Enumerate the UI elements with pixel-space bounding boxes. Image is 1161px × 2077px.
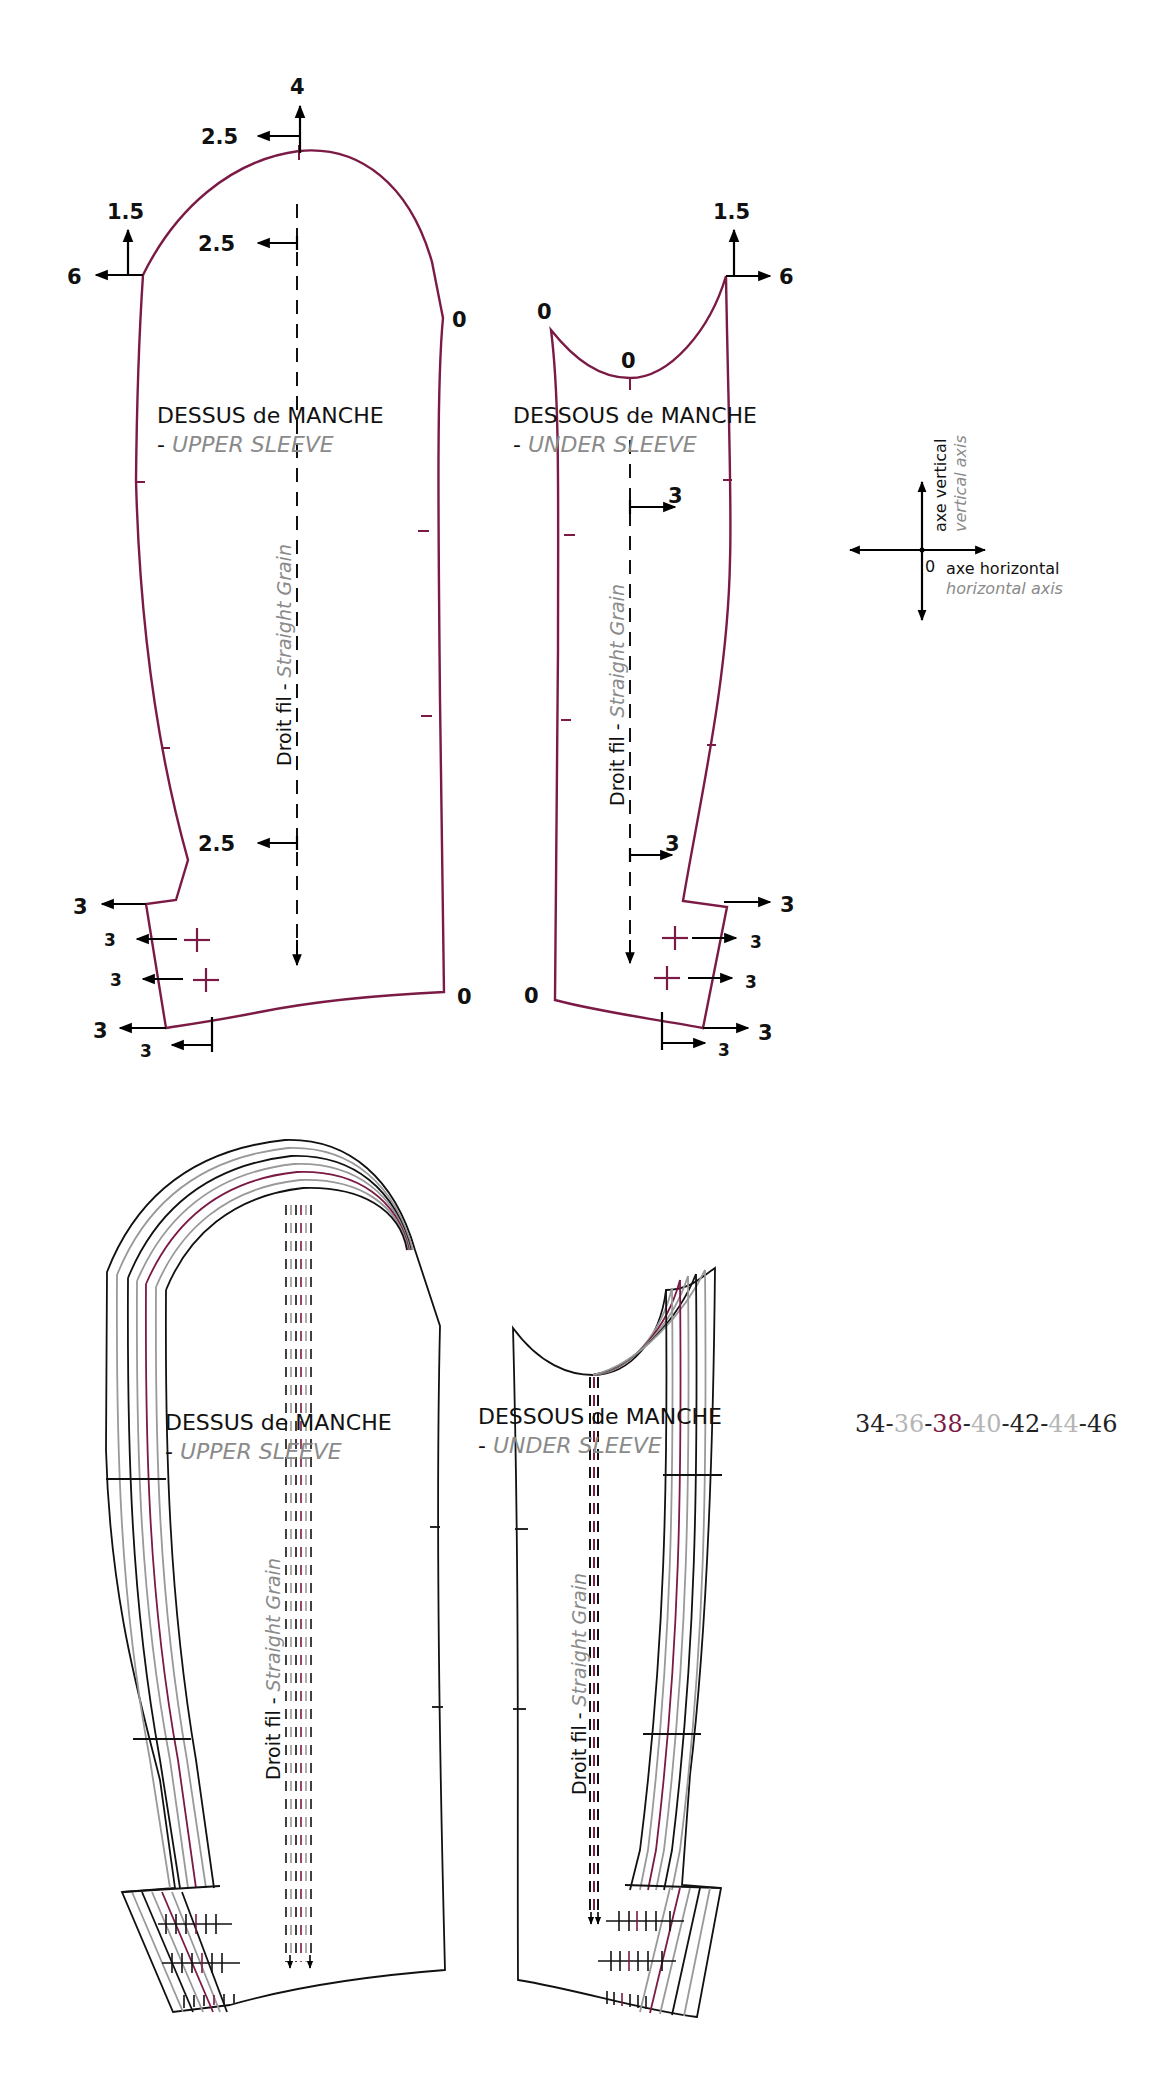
vertical-axis-label-fr: axe vertical [931,439,950,532]
pattern-sheet: DESSUS de MANCHE - UPPER SLEEVE Droit fi… [0,0,1161,2077]
grading-arrows-under [630,230,770,1050]
graded-upper-title-en: - UPPER SLEEVE [165,1439,342,1464]
vertical-axis-label-en: vertical axis [951,435,970,532]
upper-grain-label: Droit fil - Straight Grain [273,544,295,766]
graded-upper-title-fr: DESSUS de MANCHE [165,1410,392,1435]
graded-under-sleeve [513,1268,722,2017]
graded-under-grain-label: Droit fil - Straight Grain [568,1573,590,1795]
grade-value: 3 [668,484,683,508]
grade-value: 3 [718,1040,730,1060]
grade-value: 3 [110,970,122,990]
grade-value: 6 [67,265,82,289]
grade-value: 3 [93,1019,108,1043]
grade-value: 0 [457,985,472,1009]
size-46: 46 [1087,1410,1118,1438]
size-38: 38 [932,1410,963,1438]
grade-value: 3 [140,1041,152,1061]
size-36: 36 [894,1410,925,1438]
size-34: 34 [855,1410,886,1438]
size-40: 40 [971,1410,1002,1438]
size-range: 34-36-38-40-42-44-46 [855,1410,1117,1438]
notch-cross [654,926,688,990]
grade-value: 2.5 [201,125,238,149]
grade-value: 6 [779,265,794,289]
grade-value: 3 [780,893,795,917]
grade-value: 2.5 [198,232,235,256]
origin-dot [920,548,925,553]
graded-under-title-fr: DESSOUS de MANCHE [478,1404,722,1429]
size-44: 44 [1048,1410,1079,1438]
origin-label: 0 [925,557,935,576]
grade-value: 3 [73,895,88,919]
grade-value: 3 [750,932,762,952]
upper-sleeve-title-en: - UPPER SLEEVE [157,432,334,457]
under-sleeve-title-en: - UNDER SLEEVE [513,432,697,457]
under-sleeve-piece: DESSOUS de MANCHE - UNDER SLEEVE Droit f… [513,200,795,1060]
grade-value: 1.5 [713,200,750,224]
axis-legend: 0 axe horizontal horizontal axis axe ver… [850,435,1063,620]
grade-value: 0 [621,349,636,373]
grade-value: 0 [452,308,467,332]
grade-value: 0 [524,984,539,1008]
grade-value: 4 [290,75,305,99]
grade-value: 3 [665,832,680,856]
under-sleeve-title-fr: DESSOUS de MANCHE [513,403,757,428]
grade-value: 3 [745,972,757,992]
graded-upper-grain-label: Droit fil - Straight Grain [262,1558,284,1780]
upper-sleeve-piece: DESSUS de MANCHE - UPPER SLEEVE Droit fi… [67,75,472,1061]
grade-value: 3 [104,930,116,950]
horizontal-axis-label-en: horizontal axis [946,579,1063,598]
notch-cross [184,928,219,992]
graded-under-title-en: - UNDER SLEEVE [478,1433,662,1458]
grade-value: 1.5 [107,200,144,224]
under-grain-label: Droit fil - Straight Grain [606,584,628,806]
horizontal-axis-label-fr: axe horizontal [946,559,1060,578]
grade-value: 0 [537,300,552,324]
size-42: 42 [1010,1410,1041,1438]
grade-value: 2.5 [198,832,235,856]
upper-sleeve-title-fr: DESSUS de MANCHE [157,403,384,428]
under-sleeve-outline [551,276,731,1028]
grade-value: 3 [758,1021,773,1045]
